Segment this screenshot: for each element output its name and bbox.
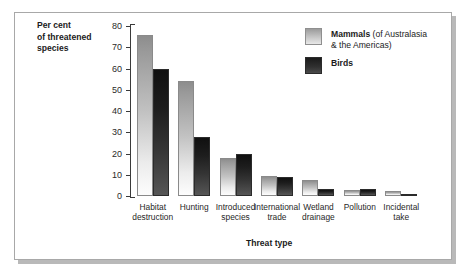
bar-group: [137, 26, 169, 196]
legend-swatch-birds-icon: [305, 57, 322, 74]
bar-group: [220, 26, 252, 196]
legend-item-birds: Birds: [305, 57, 427, 74]
bar-mammals-wetland-drainage: [302, 180, 318, 196]
x-axis-category-label-line-1: Incidental: [376, 202, 427, 212]
legend-label-lead: Mammals: [331, 29, 370, 39]
x-axis-category-label: Incidentaltake: [376, 202, 427, 223]
legend-label-sub2: & the Americas): [331, 40, 427, 51]
legend-item-mammals: Mammals (of Australasia& the Americas): [305, 28, 427, 50]
chart-legend: Mammals (of Australasia& the Americas)Bi…: [305, 28, 427, 81]
y-axis-tick-label: 0: [98, 191, 122, 201]
bar-birds-incidental-take: [401, 194, 417, 196]
bar-group: [261, 26, 293, 196]
bar-birds-wetland-drainage: [318, 189, 334, 196]
legend-label-lead: Birds: [331, 58, 353, 68]
bar-mammals-introduced-species: [220, 158, 236, 196]
x-axis-category-label-line-2: drainage: [293, 212, 344, 222]
y-axis-tick-label: 20: [98, 149, 122, 159]
bar-birds-habitat-destruction: [153, 69, 169, 197]
y-axis-tick-label: 10: [98, 170, 122, 180]
y-axis-top-serif: [131, 24, 135, 25]
y-axis-tick-label: 40: [98, 106, 122, 116]
bar-group: [178, 26, 210, 196]
chart-figure: Per cent of threatened species 010203040…: [0, 0, 466, 278]
bar-birds-international-trade: [277, 177, 293, 196]
x-axis-category-label-line-2: take: [376, 212, 427, 222]
legend-label: Mammals (of Australasia& the Americas): [331, 28, 427, 50]
bar-mammals-pollution: [344, 190, 360, 196]
legend-label: Birds: [331, 57, 353, 69]
bar-mammals-hunting: [178, 81, 194, 196]
y-axis-tick-label: 50: [98, 85, 122, 95]
x-axis-category-label-line-2: destruction: [127, 212, 178, 222]
y-axis-bottom-serif: [131, 197, 135, 198]
bar-mammals-habitat-destruction: [137, 35, 153, 197]
y-axis-tick-label: 30: [98, 127, 122, 137]
bar-birds-hunting: [194, 137, 210, 197]
bar-mammals-international-trade: [261, 176, 277, 196]
x-axis-title: Threat type: [246, 238, 292, 248]
bar-birds-pollution: [360, 189, 376, 196]
bar-birds-introduced-species: [236, 154, 252, 197]
bar-mammals-incidental-take: [385, 191, 401, 196]
y-axis-tick-label: 80: [98, 21, 122, 31]
y-axis-tick-label: 70: [98, 42, 122, 52]
y-axis-tick-label: 60: [98, 64, 122, 74]
legend-swatch-mammals-icon: [305, 28, 322, 45]
legend-label-sub: (of Australasia: [370, 29, 427, 39]
y-axis-tick: [126, 196, 131, 197]
